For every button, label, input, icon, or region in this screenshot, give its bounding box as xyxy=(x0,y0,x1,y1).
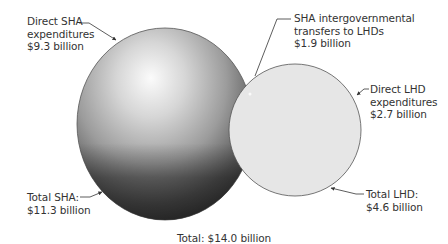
label-total-sha: Total SHA: $11.3 billion xyxy=(27,191,91,216)
label-text: Direct LHD xyxy=(370,83,437,96)
label-text: SHA intergovernmental xyxy=(294,12,415,25)
label-grand-total: Total: $14.0 billion xyxy=(0,232,448,244)
label-direct-sha-expenditures: Direct SHA expenditures $9.3 billion xyxy=(27,15,94,53)
label-value: $2.7 billion xyxy=(370,108,437,121)
sha-circle xyxy=(77,28,253,220)
total-text: Total: $14.0 billion xyxy=(177,232,271,244)
arrow-direct-lhd xyxy=(357,89,369,95)
arrow-total-lhd xyxy=(331,188,364,194)
label-direct-lhd-expenditures: Direct LHD expenditures $2.7 billion xyxy=(370,83,437,121)
label-value: $11.3 billion xyxy=(27,204,91,217)
label-text: expenditures xyxy=(370,96,437,109)
label-value: $4.6 billion xyxy=(366,201,423,214)
lhd-circle xyxy=(229,64,361,196)
expenditure-venn-diagram: Direct SHA expenditures $9.3 billion SHA… xyxy=(0,0,448,244)
label-text: Total SHA: xyxy=(27,191,91,204)
label-value: $9.3 billion xyxy=(27,40,94,53)
label-text: Direct SHA xyxy=(27,15,94,28)
label-text: expenditures xyxy=(27,28,94,41)
label-total-lhd: Total LHD: $4.6 billion xyxy=(366,188,423,213)
label-text: Total LHD: xyxy=(366,188,423,201)
label-sha-transfers-to-lhds: SHA intergovernmental transfers to LHDs … xyxy=(294,12,415,50)
label-text: transfers to LHDs xyxy=(294,25,415,38)
label-value: $1.9 billion xyxy=(294,37,415,50)
